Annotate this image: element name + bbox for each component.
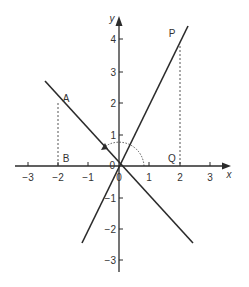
point-label-a: A [63,93,70,104]
y-tick-label: −2 [105,224,117,235]
y-tick-label: −3 [105,255,117,266]
y-tick-label: 4 [110,34,116,45]
x-tick-label: −3 [22,172,34,183]
point-label-b: B [63,153,70,164]
point-label-q: Q [168,153,176,164]
x-tick-label: 0 [116,172,122,183]
origin-label: 0 [109,160,115,171]
x-tick-label: −2 [52,172,64,183]
x-axis-label: x [226,169,233,180]
line-through-p [82,26,188,243]
y-tick-label: 3 [110,67,116,78]
y-tick-label: 2 [110,98,116,109]
x-tick-label: 1 [146,172,152,183]
x-tick-label: 2 [177,172,183,183]
x-tick-label: −1 [82,172,94,183]
x-tick-label: 3 [207,172,213,183]
y-axis-arrowhead-icon [116,16,123,26]
coordinate-plane-figure: −3 −2 −1 0 1 2 3 4 3 2 1 −1 −2 −3 0 x y … [0,0,249,287]
y-axis-label: y [109,13,116,24]
point-label-p: P [169,28,176,39]
y-tick-label: 1 [110,130,116,141]
y-tick-label: −1 [105,193,117,204]
